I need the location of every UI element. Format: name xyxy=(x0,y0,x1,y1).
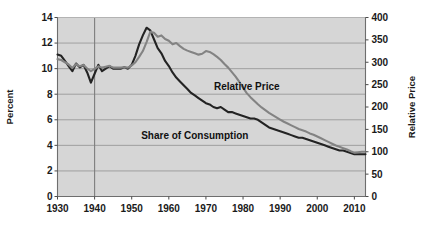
ytick-label-left: 4 xyxy=(47,140,53,151)
ytick-label-left: 2 xyxy=(47,165,53,176)
ytick-label-left: 0 xyxy=(47,191,53,202)
ytick-label-left: 6 xyxy=(47,114,53,125)
xtick-label: 2000 xyxy=(306,203,329,214)
ytick-label-left: 10 xyxy=(41,63,53,74)
xtick-label: 2010 xyxy=(343,203,366,214)
chart-container: 0246810121405010015020025030035040019301… xyxy=(0,0,429,236)
ytick-label-right: 300 xyxy=(372,57,389,68)
ytick-label-left: 8 xyxy=(47,89,53,100)
series-annotation: Relative Price xyxy=(214,81,280,92)
ytick-label-right: 400 xyxy=(372,12,389,23)
ytick-label-right: 50 xyxy=(372,169,384,180)
ytick-label-right: 200 xyxy=(372,101,389,112)
xtick-label: 1980 xyxy=(232,203,255,214)
xtick-label: 1940 xyxy=(83,203,106,214)
xtick-label: 1960 xyxy=(158,203,181,214)
xtick-label: 1930 xyxy=(46,203,69,214)
ytick-label-right: 0 xyxy=(372,191,378,202)
axis-title-left: Percent xyxy=(4,89,15,125)
ytick-label-left: 12 xyxy=(41,37,53,48)
ytick-label-right: 350 xyxy=(372,34,389,45)
ytick-label-right: 150 xyxy=(372,124,389,135)
series-annotation: Share of Consumption xyxy=(141,130,248,141)
axis-title-right: Relative Price xyxy=(406,76,417,138)
ytick-label-left: 14 xyxy=(41,12,53,23)
ytick-label-right: 100 xyxy=(372,146,389,157)
xtick-label: 1990 xyxy=(269,203,292,214)
line-chart: 0246810121405010015020025030035040019301… xyxy=(0,0,429,236)
xtick-label: 1950 xyxy=(121,203,144,214)
plot-area-background xyxy=(58,18,366,197)
ytick-label-right: 250 xyxy=(372,79,389,90)
xtick-label: 1970 xyxy=(195,203,218,214)
